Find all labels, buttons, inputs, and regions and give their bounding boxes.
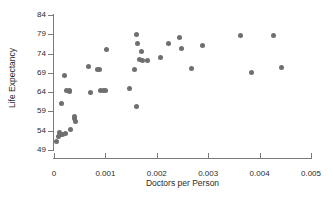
y-axis-tick-label: 59 [22,107,46,115]
data-point [279,65,284,70]
plot-area [54,15,311,150]
data-point [135,41,140,46]
data-point [62,73,67,78]
y-axis-title: Life Expectancy [7,33,17,123]
x-axis-tick-label-text: 0.002 [147,169,167,178]
y-axis-tick-label: 84 [22,11,46,19]
data-point [134,104,139,109]
x-axis-tick [105,153,106,159]
y-axis-tick-label-text: 74 [24,50,46,58]
data-point [68,127,73,132]
data-point [132,67,137,72]
data-point [145,58,150,63]
x-axis-line [53,158,312,159]
data-point [139,49,144,54]
data-point [59,101,64,106]
x-axis-tick [208,153,209,159]
y-axis-tick-label: 69 [22,69,46,77]
x-axis-tick-label-text: 0.004 [250,169,270,178]
data-point [67,89,72,94]
data-point [103,88,108,93]
data-point [54,139,59,144]
y-axis-tick-label: 49 [22,146,46,154]
data-point [134,32,139,37]
data-point [73,119,78,124]
y-axis-tick-label: 74 [22,50,46,58]
x-axis-tick-label-text: 0.003 [198,169,218,178]
data-point [158,55,163,60]
y-axis-tick-label-text: 54 [24,127,46,135]
y-axis-tick-label-text: 59 [24,107,46,115]
data-point [97,67,102,72]
data-point [88,90,93,95]
data-point [86,64,91,69]
x-axis-tick [54,153,55,159]
y-axis-tick-label-text: 49 [24,146,46,154]
y-axis-tick-label: 79 [22,30,46,38]
x-axis-title: Doctors per Person [54,178,311,188]
data-point [271,33,276,38]
x-axis-tick-label-text: 0.001 [95,169,115,178]
x-axis-tick [157,153,158,159]
data-point [189,66,194,71]
scatter-plot-chart: 4954596469747984 00.0010.0020.0030.0040.… [0,0,333,200]
data-point [127,86,132,91]
x-axis-tick-label-text: 0 [52,169,56,178]
x-axis-tick [311,153,312,159]
y-axis-tick-label-text: 69 [24,69,46,77]
y-axis-tick-label-text: 79 [24,30,46,38]
data-point [177,35,182,40]
data-point [104,47,109,52]
data-point [238,33,243,38]
data-point [249,70,254,75]
data-point [179,46,184,51]
data-point [166,41,171,46]
y-axis-tick-label-text: 84 [24,11,46,19]
y-axis-tick-label: 64 [22,88,46,96]
y-axis-tick-label-text: 64 [24,88,46,96]
y-axis-tick-label: 54 [22,127,46,135]
x-axis-tick-label-text: 0.005 [301,169,321,178]
data-point [63,131,68,136]
y-axis-tick [48,150,54,151]
x-axis-tick [260,153,261,159]
data-point [200,43,205,48]
